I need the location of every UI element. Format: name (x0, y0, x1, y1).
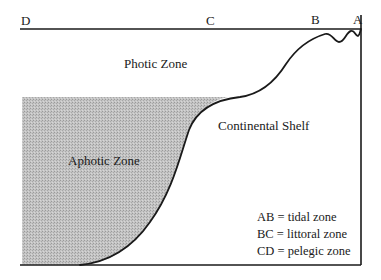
continental-shelf-label: Continental Shelf (218, 119, 309, 132)
photic-zone-label: Photic Zone (124, 57, 187, 70)
legend-item-ab: AB = tidal zone (257, 209, 350, 226)
point-label-c: C (206, 14, 215, 27)
point-label-a: A (353, 13, 362, 26)
legend: AB = tidal zone BC = littoral zone CD = … (257, 209, 350, 260)
point-label-d: D (21, 14, 30, 27)
point-label-b: B (311, 13, 320, 26)
legend-item-cd: CD = pelegic zone (257, 243, 350, 260)
legend-item-bc: BC = littoral zone (257, 226, 350, 243)
aphotic-zone-label: Aphotic Zone (68, 154, 140, 167)
aphotic-zone-shading (22, 97, 228, 265)
